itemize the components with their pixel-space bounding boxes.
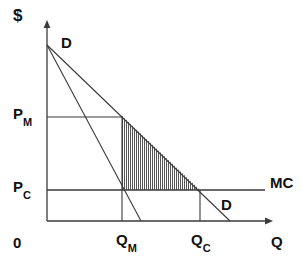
demand-curve xyxy=(47,45,230,221)
demand-curve-label-top: D xyxy=(61,35,72,50)
quantity-monopoly-label-subscript: M xyxy=(128,242,137,254)
price-monopoly-label: PM xyxy=(13,106,32,125)
price-competitive-label-subscript: C xyxy=(23,189,31,201)
x-axis-arrow-icon xyxy=(265,218,273,225)
price-competitive-label-base: P xyxy=(13,178,23,195)
deadweight-loss-triangle xyxy=(122,116,200,190)
x-axis-label: Q xyxy=(271,234,283,249)
price-monopoly-label-base: P xyxy=(13,105,23,122)
y-axis-label: $ xyxy=(13,7,22,24)
price-monopoly-label-subscript: M xyxy=(23,116,32,128)
quantity-monopoly-label-base: Q xyxy=(116,231,128,248)
quantity-competitive-label-base: Q xyxy=(191,231,203,248)
price-competitive-label: PC xyxy=(13,179,31,198)
demand-curve-label-bottom: D xyxy=(221,197,232,212)
quantity-monopoly-label: QM xyxy=(116,232,137,251)
y-axis-arrow-icon xyxy=(44,20,51,28)
quantity-competitive-label: QC xyxy=(191,232,211,251)
quantity-competitive-label-subscript: C xyxy=(203,242,211,254)
marginal-cost-label: MC xyxy=(270,175,293,190)
plot-canvas xyxy=(0,0,302,268)
economics-diagram: $ D D MC PM PC QM QC 0 Q xyxy=(0,0,302,268)
origin-label: 0 xyxy=(13,235,21,250)
